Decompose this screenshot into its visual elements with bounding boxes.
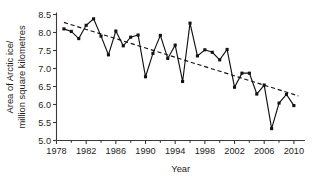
data-point-marker [211, 51, 214, 54]
y-tick-label: 7.5 [38, 46, 51, 56]
data-point-marker [166, 57, 169, 60]
data-point-marker [188, 22, 191, 25]
data-point-marker [233, 86, 236, 89]
data-point-marker [248, 72, 251, 75]
y-tick-label: 8.5 [38, 10, 51, 20]
arctic-ice-line-chart: 5.05.56.06.57.07.58.08.51978198219861990… [0, 0, 312, 177]
y-axis-title-line1: Area of Arctic ice/ [4, 40, 15, 113]
x-tick-label: 2006 [254, 146, 274, 156]
x-tick-label: 1994 [165, 146, 185, 156]
data-point-marker [240, 72, 243, 75]
x-tick-label: 1986 [106, 146, 126, 156]
x-tick-label: 1990 [135, 146, 155, 156]
data-point-marker [129, 36, 132, 39]
data-point-marker [292, 104, 295, 107]
data-point-marker [144, 75, 147, 78]
data-point-marker [114, 30, 117, 33]
data-point-marker [122, 44, 125, 47]
y-axis-title-line2: million square kilometres [16, 25, 27, 128]
data-point-marker [196, 54, 199, 57]
data-point-marker [181, 80, 184, 83]
data-point-marker [159, 34, 162, 37]
data-series-line [64, 19, 294, 129]
y-tick-label: 6.0 [38, 100, 51, 110]
data-point-marker [285, 93, 288, 96]
data-point-marker [92, 17, 95, 20]
data-point-marker [226, 48, 229, 51]
data-point-marker [85, 24, 88, 27]
data-point-marker [270, 127, 273, 130]
data-point-marker [203, 48, 206, 51]
x-tick-label: 1978 [46, 146, 66, 156]
data-point-marker [99, 35, 102, 38]
x-tick-label: 1982 [76, 146, 96, 156]
y-tick-label: 6.5 [38, 82, 51, 92]
data-point-marker [218, 58, 221, 61]
y-tick-label: 7.0 [38, 64, 51, 74]
data-point-marker [137, 33, 140, 36]
y-tick-label: 8.0 [38, 28, 51, 38]
data-point-marker [77, 37, 80, 40]
y-tick-label: 5.0 [38, 136, 51, 146]
data-point-marker [151, 52, 154, 55]
data-point-marker [70, 30, 73, 33]
data-point-marker [62, 27, 65, 30]
x-axis-title: Year [171, 163, 190, 174]
data-point-marker [107, 53, 110, 56]
data-point-marker [174, 44, 177, 47]
y-tick-label: 5.5 [38, 118, 51, 128]
x-tick-label: 1998 [195, 146, 215, 156]
x-tick-label: 2002 [224, 146, 244, 156]
data-point-marker [277, 102, 280, 105]
x-tick-label: 2010 [284, 146, 304, 156]
data-point-marker [263, 84, 266, 87]
chart-figure: 5.05.56.06.57.07.58.08.51978198219861990… [0, 0, 312, 177]
data-point-marker [255, 93, 258, 96]
